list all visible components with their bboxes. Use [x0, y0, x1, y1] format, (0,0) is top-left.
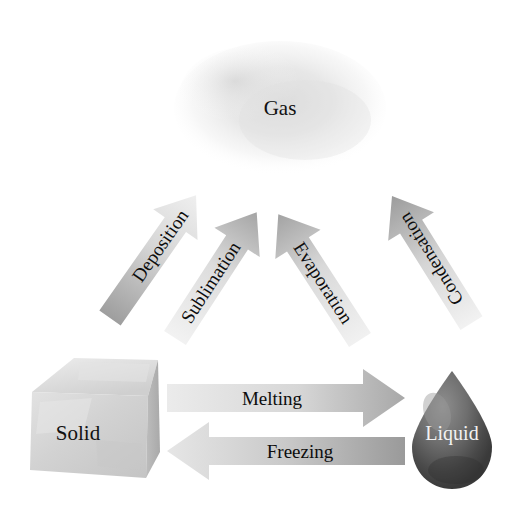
- melting-label: Melting: [242, 388, 303, 409]
- liquid-label: Liquid: [425, 422, 478, 445]
- deposition-label: Deposition: [128, 205, 193, 286]
- gas-cloud-wisp: [239, 80, 371, 160]
- evaporation-label: Evaporation: [289, 238, 357, 328]
- water-droplet-shadow: [428, 456, 484, 484]
- sublimation-label: Sublimation: [176, 237, 244, 327]
- transition-melting[interactable]: Melting: [167, 369, 405, 427]
- state-gas[interactable]: Gas: [174, 41, 386, 175]
- phase-change-diagram: Gas Solid Liquid Deposition Sublimation …: [0, 0, 530, 508]
- state-liquid[interactable]: Liquid: [412, 371, 492, 489]
- ice-cube-texture-c: [78, 362, 150, 382]
- condensation-label: Condensation: [394, 209, 467, 309]
- ice-cube-texture-b: [96, 440, 142, 470]
- state-solid[interactable]: Solid: [30, 358, 160, 478]
- gas-label: Gas: [264, 96, 297, 120]
- solid-label: Solid: [56, 421, 101, 445]
- freezing-label: Freezing: [267, 441, 334, 462]
- transition-condensation[interactable]: Condensation: [369, 182, 494, 338]
- transition-evaporation[interactable]: Evaporation: [256, 199, 383, 354]
- transition-freezing[interactable]: Freezing: [167, 422, 405, 480]
